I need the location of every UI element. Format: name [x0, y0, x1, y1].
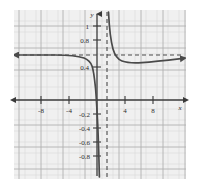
y-tick-label-neg-0-4: -0.4	[79, 125, 91, 133]
plot-background	[14, 10, 186, 179]
rational-function-graph: 1 0.8 0.4 -0.2 -0.4 -0.6 -0.8 -8 -4 4 8 …	[0, 0, 197, 179]
x-tick-label-neg-8: -8	[38, 107, 44, 115]
y-tick-label-neg-0-8: -0.8	[79, 153, 91, 161]
plot-surface: 1 0.8 0.4 -0.2 -0.4 -0.6 -0.8 -8 -4 4 8 …	[0, 0, 197, 179]
x-tick-label-4: 4	[123, 107, 127, 115]
x-tick-label-neg-4: -4	[66, 107, 72, 115]
x-tick-label-8: 8	[151, 107, 155, 115]
chart-figure: 1 0.8 0.4 -0.2 -0.4 -0.6 -0.8 -8 -4 4 8 …	[0, 0, 197, 179]
y-tick-label-1: 1	[86, 23, 90, 31]
y-tick-label-0-4: 0.4	[80, 64, 89, 72]
y-tick-label-neg-0-2: -0.2	[79, 111, 91, 119]
y-tick-label-neg-0-6: -0.6	[79, 139, 91, 147]
y-tick-label-0-8: 0.8	[80, 37, 89, 45]
